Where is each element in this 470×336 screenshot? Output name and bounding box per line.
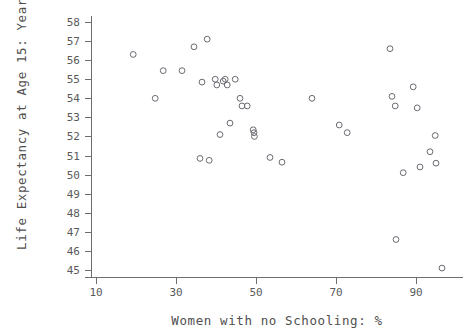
x-tick-label: 50 [249, 286, 262, 299]
y-tick-label: 48 [67, 207, 80, 220]
data-point [433, 160, 439, 166]
data-point [214, 82, 220, 88]
y-tick-label: 53 [67, 111, 80, 124]
data-point [160, 68, 166, 74]
x-axis-ticks: 1030507090 [89, 278, 422, 300]
data-point [197, 156, 203, 162]
data-point [427, 149, 433, 155]
data-point [393, 237, 399, 243]
data-point [191, 44, 197, 50]
y-tick-label: 54 [67, 92, 81, 105]
data-point [400, 170, 406, 176]
data-point [237, 95, 243, 101]
data-point [224, 82, 230, 88]
data-point [410, 84, 416, 90]
y-tick-label: 46 [67, 245, 80, 258]
y-tick-label: 52 [67, 130, 80, 143]
x-tick-label: 70 [329, 286, 342, 299]
axis-lines [85, 16, 463, 278]
data-point [206, 157, 212, 163]
data-point [414, 105, 420, 111]
y-tick-label: 51 [67, 150, 80, 163]
data-point [389, 94, 395, 100]
data-point [392, 103, 398, 109]
y-tick-label: 45 [67, 264, 80, 277]
y-tick-label: 57 [67, 35, 80, 48]
data-point [179, 68, 185, 74]
data-point [336, 122, 342, 128]
data-point [252, 134, 258, 140]
data-point [204, 36, 210, 42]
y-tick-label: 58 [67, 16, 80, 29]
y-tick-label: 50 [67, 169, 80, 182]
y-tick-label: 47 [67, 226, 80, 239]
y-tick-label: 49 [67, 188, 80, 201]
data-point [439, 265, 445, 271]
y-axis-title: Life Expectancy at Age 15: Years [14, 0, 29, 250]
x-axis-title: Women with no Schooling: % [171, 313, 382, 328]
data-point [232, 76, 238, 82]
data-point-markers [130, 36, 445, 271]
x-tick-label: 10 [89, 286, 102, 299]
plot-area: 4546474849505152535455565758 1030507090 … [0, 0, 470, 336]
data-point [279, 159, 285, 165]
data-point [432, 133, 438, 139]
data-point [387, 46, 393, 52]
data-point [309, 95, 315, 101]
data-point [227, 120, 233, 126]
y-tick-label: 56 [67, 54, 80, 67]
data-point [212, 76, 218, 82]
data-point [199, 79, 205, 85]
data-point [217, 132, 223, 138]
scatter-chart-figure: 4546474849505152535455565758 1030507090 … [0, 0, 470, 336]
x-tick-label: 30 [169, 286, 182, 299]
y-tick-label: 55 [67, 73, 80, 86]
data-point [152, 95, 158, 101]
data-point [417, 164, 423, 170]
data-point [344, 130, 350, 136]
data-point [267, 155, 273, 161]
y-axis-ticks: 4546474849505152535455565758 [67, 16, 92, 277]
x-tick-label: 90 [409, 286, 422, 299]
data-point [130, 52, 136, 58]
